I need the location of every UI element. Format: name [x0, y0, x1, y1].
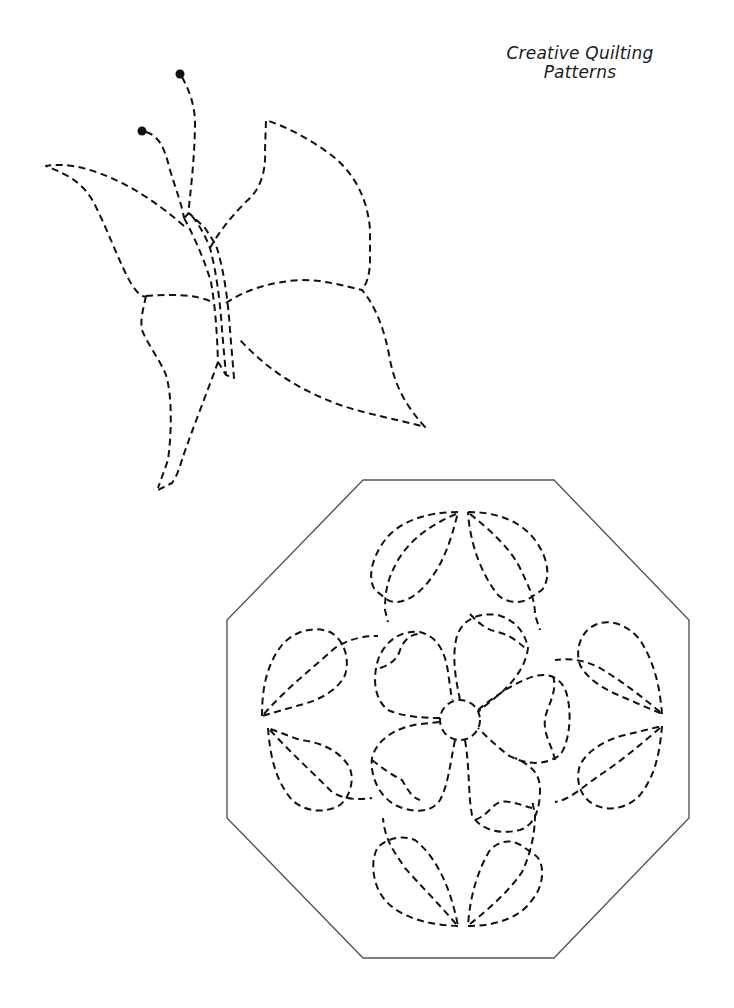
antenna-dot-icon: [138, 127, 147, 136]
butterfly-pattern: [46, 70, 425, 491]
butterfly-body: [184, 213, 234, 378]
bottom-leaf-pair: [373, 800, 542, 926]
octagon-flower-block: [227, 480, 689, 958]
right-leaf-pair: [555, 622, 662, 808]
flower-center: [440, 700, 480, 740]
quilting-patterns-canvas: [0, 0, 734, 1008]
octagon-border: [227, 480, 689, 958]
lower-left-wing: [141, 295, 218, 490]
lower-right-wing: [226, 280, 425, 427]
top-leaf-pair: [371, 512, 547, 630]
upper-left-wing: [46, 165, 184, 297]
upper-right-wing: [210, 120, 370, 290]
left-leaf-pair: [262, 629, 378, 810]
butterfly-antennae: [138, 70, 196, 219]
center-flower-petals: [372, 614, 570, 832]
